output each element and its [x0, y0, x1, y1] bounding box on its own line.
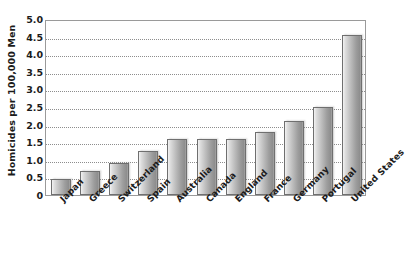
- y-axis-tick-labels: 00.51.01.52.02.53.03.54.04.55.0: [20, 20, 43, 196]
- y-tick-label: 1.5: [20, 138, 43, 148]
- y-tick-label: 1.0: [20, 156, 43, 166]
- y-tick-label: 0.5: [20, 174, 43, 184]
- y-tick-label: 3.0: [20, 86, 43, 96]
- y-tick-label: 5.0: [20, 15, 43, 25]
- y-tick-label: 3.5: [20, 68, 43, 78]
- x-axis-tick-labels: JapanGreeceSwitzerlandSpainAustraliaCana…: [45, 197, 366, 265]
- y-tick-label: 4.5: [20, 33, 43, 43]
- y-tick-label: 0: [20, 191, 43, 201]
- y-tick-label: 4.0: [20, 50, 43, 60]
- y-axis-title-text: Homicides per 100,000 Men: [7, 24, 18, 176]
- y-tick-label: 2.0: [20, 121, 43, 131]
- y-tick-label: 2.5: [20, 103, 43, 113]
